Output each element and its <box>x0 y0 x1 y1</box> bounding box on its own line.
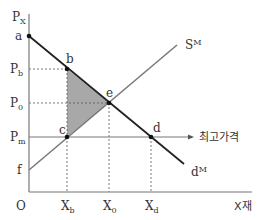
demand-curve <box>29 36 184 164</box>
label-x0: X0 <box>103 199 117 215</box>
label-p0: P0 <box>10 96 23 112</box>
price-ceiling-arrow-icon <box>188 135 194 140</box>
label-e: e <box>106 86 113 100</box>
point-e <box>107 101 112 106</box>
label-xd: Xd <box>145 199 159 215</box>
label-pb: Pb <box>10 62 23 78</box>
point-b <box>65 67 70 72</box>
point-a <box>27 34 32 39</box>
label-b: b <box>66 52 74 66</box>
label-pm: Pm <box>10 130 26 146</box>
label-demand-curve: dM <box>191 165 207 179</box>
label-supply-curve: SM <box>185 38 201 52</box>
x-axis-label: X재 <box>234 200 252 213</box>
label-d: d <box>153 121 161 135</box>
y-axis-label: PX <box>12 10 26 26</box>
label-f: f <box>17 163 23 177</box>
label-price-ceiling: 최고가격 <box>199 131 239 144</box>
supply-demand-diagram: PX a f Pb P0 Pm b e c d SM dM 최고가격 O Xb … <box>0 0 266 220</box>
supply-curve <box>29 45 177 170</box>
label-origin: O <box>16 199 26 213</box>
label-xb: Xb <box>61 199 75 215</box>
label-a: a <box>15 29 22 43</box>
point-d <box>149 135 154 140</box>
label-c: c <box>59 123 66 137</box>
